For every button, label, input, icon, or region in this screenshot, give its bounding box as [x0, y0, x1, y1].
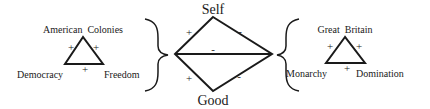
left-brace-icon — [145, 19, 168, 91]
left-triangle-democracy-label: Democracy — [17, 69, 63, 80]
right-triangle-title: Great Britain — [318, 24, 373, 35]
left-triangle-right-sign: + — [93, 41, 99, 53]
diamond-lower-right-sign: - — [237, 70, 241, 82]
diamond-lower-left-sign: + — [186, 72, 192, 84]
good-label: Good — [197, 93, 228, 108]
right-triangle-group: Great Britain + + + Monarchy Domination — [286, 24, 404, 79]
left-triangle-left-sign: + — [68, 41, 74, 53]
left-triangle-title: American Colonies — [43, 24, 123, 35]
right-triangle-left-sign: + — [327, 40, 333, 52]
diamond-middle-sign: - — [211, 43, 215, 55]
diamond-upper-right-sign: - — [238, 25, 242, 37]
left-triangle-freedom-label: Freedom — [104, 69, 140, 80]
right-brace-icon — [277, 19, 299, 91]
right-triangle-monarchy-label: Monarchy — [286, 68, 327, 79]
center-diamond-group: Self + - - + - Good — [175, 2, 272, 108]
right-triangle-right-sign: + — [356, 40, 362, 52]
right-triangle-base-sign: + — [344, 62, 350, 74]
balance-diagram: American Colonies + + + Democracy Freedo… — [0, 0, 430, 109]
diamond-upper-left-sign: + — [186, 26, 192, 38]
left-triangle-base-sign: + — [82, 63, 88, 75]
self-label: Self — [202, 2, 225, 17]
left-triangle-group: American Colonies + + + Democracy Freedo… — [17, 24, 140, 80]
right-triangle-domination-label: Domination — [356, 68, 404, 79]
